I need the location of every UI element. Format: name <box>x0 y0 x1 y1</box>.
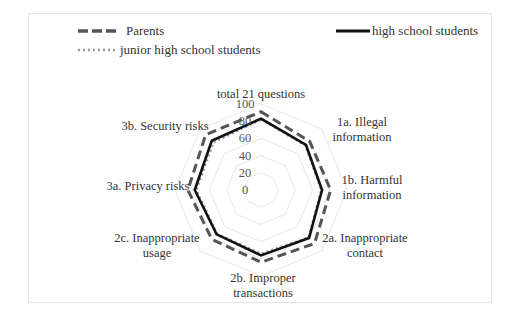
series-parents <box>188 112 331 263</box>
axis-label: transactions <box>233 286 293 300</box>
radar-chart: Parentshigh school studentsjunior high s… <box>0 0 524 322</box>
legend: Parentshigh school studentsjunior high s… <box>78 23 478 57</box>
series-lines <box>188 112 331 263</box>
axis-label: information <box>332 130 392 144</box>
axis-label: 2a. Inappropriate <box>322 231 408 245</box>
tick-label: 40 <box>239 149 252 163</box>
grid-ring <box>227 156 296 225</box>
axis-label: 1a. Illegal <box>337 115 388 129</box>
axis-label: total 21 questions <box>217 87 305 101</box>
legend-label: junior high school students <box>119 42 260 57</box>
axis-label: contact <box>347 246 384 260</box>
grid-ring <box>209 138 312 241</box>
axis-label: 3b. Security risks <box>121 119 208 133</box>
tick-label: 60 <box>239 131 252 145</box>
legend-label: Parents <box>126 23 164 38</box>
axis-label: 3a. Privacy risks <box>107 179 190 193</box>
axis-label: 2c. Inappropriate <box>114 231 200 245</box>
radial-tick-labels: 020406080100 <box>236 97 255 197</box>
tick-label: 80 <box>239 114 252 128</box>
axis-label: information <box>342 188 402 202</box>
legend-label: high school students <box>372 23 478 38</box>
tick-label: 0 <box>242 183 248 197</box>
axis-label: 2b. Improper <box>230 271 296 285</box>
tick-label: 20 <box>239 166 252 180</box>
axis-label: usage <box>143 246 172 260</box>
axis-label: 1b. Harmful <box>341 173 403 187</box>
